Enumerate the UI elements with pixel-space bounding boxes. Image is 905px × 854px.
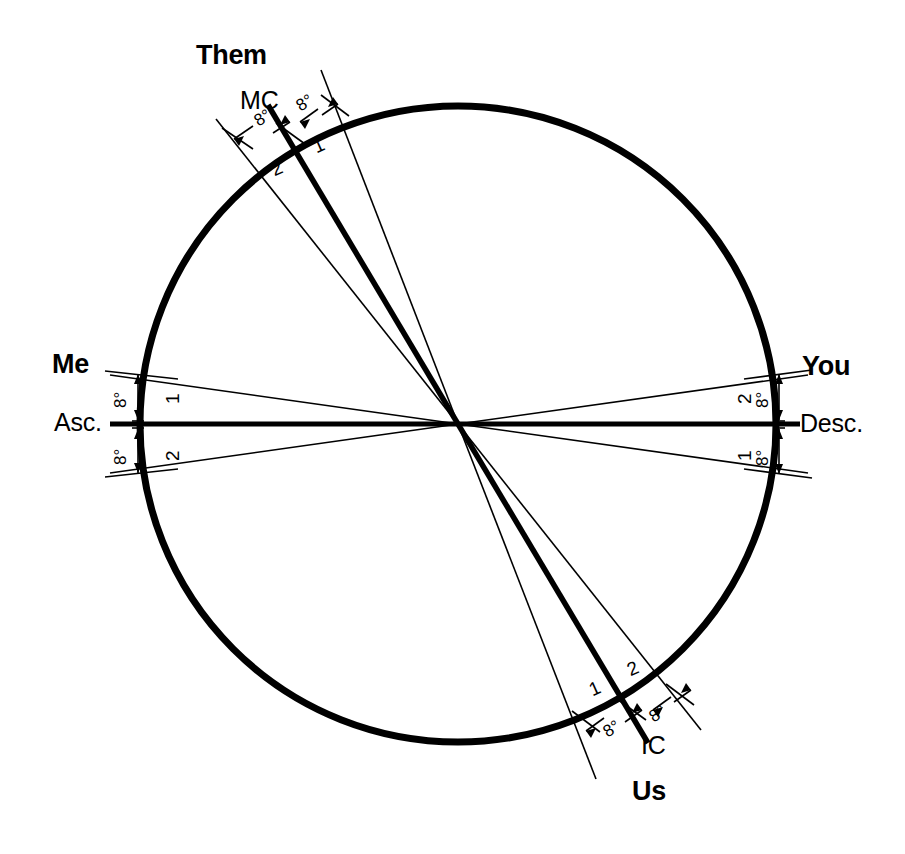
degree-label-asc-lower: 8° — [112, 449, 129, 465]
label-ic: IC — [641, 733, 666, 758]
house-number-desc-lower: 1 — [735, 450, 754, 461]
asc-offset-line-2 — [110, 424, 458, 473]
ic-offset-line-2 — [458, 424, 701, 730]
mc-offset-line-1 — [321, 70, 458, 424]
house-number-desc-upper: 2 — [735, 393, 754, 404]
label-desc: Desc. — [800, 411, 863, 436]
label-them: Them — [196, 42, 267, 69]
house-number-asc-upper: 1 — [163, 393, 182, 404]
label-you: You — [802, 353, 850, 380]
ic-offset-line-1 — [458, 424, 596, 779]
degree-label-asc-upper: 8° — [112, 392, 129, 408]
axis-diagram-svg — [0, 0, 905, 854]
label-me: Me — [52, 351, 89, 378]
label-asc: Asc. — [54, 410, 102, 435]
label-us: Us — [632, 778, 666, 805]
degree-label-desc-lower: 8° — [754, 450, 771, 466]
degree-label-desc-upper: 8° — [754, 392, 771, 408]
house-number-asc-lower: 2 — [163, 450, 182, 461]
diagram-canvas: Them MC Us IC Me Asc. You Desc. 8° 8° 8°… — [0, 0, 905, 854]
mc-offset-line-2 — [216, 119, 458, 424]
